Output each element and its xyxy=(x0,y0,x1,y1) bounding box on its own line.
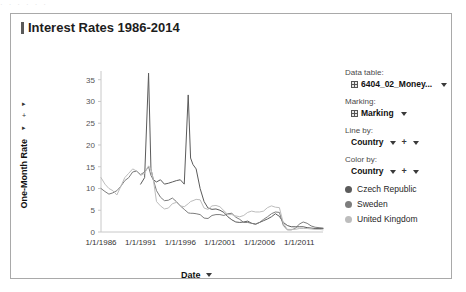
x-axis-tick-label: 1/1/2011 xyxy=(284,238,315,247)
chevron-down-icon[interactable] xyxy=(390,141,396,145)
x-axis-tick-label: 1/1/1996 xyxy=(165,238,197,247)
y-axis-arrow-bottom-icon[interactable]: ▸ xyxy=(22,124,26,131)
title-text: Interest Rates 1986-2014 xyxy=(28,20,180,35)
marking-value: Marking xyxy=(361,108,394,119)
chart-series-lines xyxy=(101,73,323,230)
legend-item-label: United Kingdom xyxy=(357,214,417,224)
chart-plot-area: 05101520253035 1/1/19861/1/19911/1/19961… xyxy=(69,69,327,249)
y-axis-tick-label: 5 xyxy=(91,206,96,215)
chevron-down-icon[interactable] xyxy=(206,273,212,277)
legend-item[interactable]: Czech Republic xyxy=(345,184,465,194)
legend-entries: Czech RepublicSwedenUnited Kingdom xyxy=(345,184,465,224)
legend-color-dot xyxy=(345,186,352,193)
legend-item[interactable]: Sweden xyxy=(345,199,465,209)
marking-label: Marking: xyxy=(345,97,465,107)
chevron-down-icon[interactable] xyxy=(413,170,419,174)
y-axis-tick-label: 10 xyxy=(86,184,95,193)
chart-line-czech-republic xyxy=(141,73,323,228)
bar-mark-icon xyxy=(21,22,24,34)
x-axis-tick-label: 1/1/2001 xyxy=(204,238,236,247)
chevron-down-icon[interactable] xyxy=(413,141,419,145)
y-axis-tick-label: 25 xyxy=(86,119,95,128)
marking-swatch-icon xyxy=(351,110,358,117)
chart-line-united-kingdom xyxy=(101,166,323,230)
chevron-down-icon[interactable] xyxy=(441,83,447,87)
legend-color-dot xyxy=(345,216,352,223)
y-axis-arrow-top-icon[interactable]: ▸ xyxy=(22,100,26,107)
legend-item[interactable]: United Kingdom xyxy=(345,214,465,224)
x-axis-tick-label: 1/1/1986 xyxy=(85,238,117,247)
line-by-selector[interactable]: Country + xyxy=(351,137,465,148)
table-grid-icon xyxy=(351,81,358,88)
chevron-down-icon[interactable] xyxy=(401,112,407,116)
legend-item-label: Czech Republic xyxy=(357,184,417,194)
color-by-value: Country xyxy=(351,166,384,177)
line-chart-svg: 05101520253035 1/1/19861/1/19911/1/19961… xyxy=(69,69,327,249)
page-title: Interest Rates 1986-2014 xyxy=(21,20,180,35)
y-axis-tick-label: 15 xyxy=(86,163,95,172)
x-axis-title[interactable]: Date xyxy=(181,270,212,280)
marking-selector[interactable]: Marking xyxy=(351,108,465,119)
x-axis-tick-labels: 1/1/19861/1/19911/1/19961/1/20011/1/2006… xyxy=(85,238,315,247)
legend-item-label: Sweden xyxy=(357,199,388,209)
data-table-value: 6404_02_Money... xyxy=(361,79,432,90)
line-by-label: Line by: xyxy=(345,126,465,136)
y-axis-selector[interactable]: ▸ + ▸ One-Month Rate xyxy=(16,100,32,240)
y-axis-title[interactable]: One-Month Rate xyxy=(19,139,29,209)
y-axis-tick-label: 35 xyxy=(86,76,95,85)
line-by-add-icon[interactable]: + xyxy=(402,138,407,147)
x-axis-tick-label: 1/1/2006 xyxy=(244,238,276,247)
color-by-label: Color by: xyxy=(345,155,465,165)
chart-line-sweden xyxy=(101,167,323,230)
color-by-selector[interactable]: Country + xyxy=(351,166,465,177)
chevron-down-icon[interactable] xyxy=(390,170,396,174)
legend-color-dot xyxy=(345,201,352,208)
color-by-add-icon[interactable]: + xyxy=(402,167,407,176)
visualization-frame: Interest Rates 1986-2014 ▸ + ▸ One-Month… xyxy=(10,13,452,279)
data-table-selector[interactable]: 6404_02_Money... xyxy=(351,79,465,90)
x-axis-title-label: Date xyxy=(181,270,201,280)
data-table-label: Data table: xyxy=(345,68,465,78)
y-axis-tick-labels: 05101520253035 xyxy=(86,76,95,237)
scan-artifact-text: · · · · · · xyxy=(0,0,466,12)
line-by-value: Country xyxy=(351,137,384,148)
x-axis-tick-label: 1/1/1991 xyxy=(125,238,157,247)
y-axis-tick-label: 0 xyxy=(91,228,96,237)
y-axis-tick-label: 20 xyxy=(86,141,95,150)
legend-panel: Data table: 6404_02_Money... Marking: Ma… xyxy=(345,68,465,229)
y-axis-tick-label: 30 xyxy=(86,97,95,106)
y-axis-plus-icon[interactable]: + xyxy=(22,112,26,119)
